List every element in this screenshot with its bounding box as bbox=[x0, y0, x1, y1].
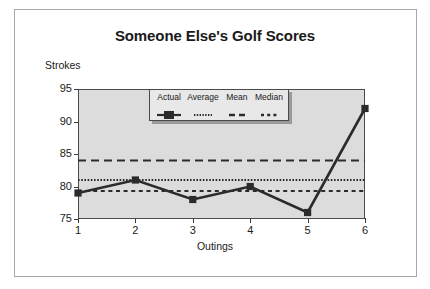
data-point-marker bbox=[247, 183, 254, 190]
legend-label-mean: Mean bbox=[226, 92, 247, 103]
data-point-marker bbox=[132, 176, 139, 183]
chart-title: Someone Else's Golf Scores bbox=[0, 27, 430, 44]
x-tick-label: 4 bbox=[240, 224, 260, 236]
legend-entry-mean: Mean bbox=[221, 92, 253, 118]
data-point-marker bbox=[361, 105, 368, 112]
x-tick-label: 1 bbox=[68, 224, 88, 236]
data-point-marker bbox=[304, 209, 311, 216]
y-axis-label: Strokes bbox=[45, 59, 81, 71]
x-tick-label: 3 bbox=[183, 224, 203, 236]
legend-entry-median: Median bbox=[253, 92, 285, 118]
x-tick-label: 2 bbox=[125, 224, 145, 236]
y-tick-label: 80 bbox=[46, 180, 72, 192]
data-point-marker bbox=[74, 189, 81, 196]
y-tick-label: 75 bbox=[46, 212, 72, 224]
legend-label-median: Median bbox=[255, 92, 283, 103]
legend: Actual Average Mean bbox=[149, 89, 289, 121]
fine-dotted-line-swatch bbox=[189, 106, 217, 116]
y-tick-label: 90 bbox=[46, 115, 72, 127]
data-point-marker bbox=[189, 196, 196, 203]
solid-line-square-marker-swatch bbox=[155, 106, 183, 116]
y-tick-label: 85 bbox=[46, 147, 72, 159]
legend-label-actual: Actual bbox=[157, 92, 181, 103]
short-dashed-line-swatch bbox=[255, 106, 283, 116]
x-axis-label: Outings bbox=[0, 240, 430, 252]
legend-entry-average: Average bbox=[185, 92, 221, 118]
long-dashed-line-swatch bbox=[223, 106, 251, 116]
chart-figure: Someone Else's Golf Scores Strokes Outin… bbox=[0, 0, 430, 289]
x-tick-mark bbox=[365, 218, 366, 223]
legend-entry-actual: Actual bbox=[153, 92, 185, 118]
y-tick-label: 95 bbox=[46, 82, 72, 94]
x-tick-label: 6 bbox=[355, 224, 375, 236]
x-tick-label: 5 bbox=[298, 224, 318, 236]
legend-label-average: Average bbox=[187, 92, 219, 103]
